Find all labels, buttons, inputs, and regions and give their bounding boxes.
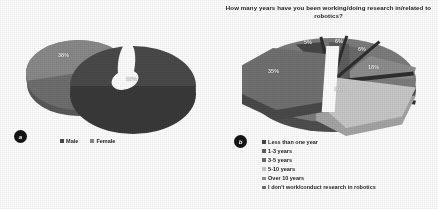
- legend-swatch-icon: [262, 167, 266, 171]
- legend-b-label-5: I don't work/conduct research in robotic…: [268, 184, 376, 190]
- legend-a-item-male[interactable]: Male: [60, 138, 78, 144]
- legend-b-item-less-than-one-year[interactable]: Less than one year: [262, 139, 376, 145]
- legend-b-label-3: 5-10 years: [268, 166, 295, 172]
- legend-a-label-male: Male: [66, 138, 78, 144]
- pie-b-percent-less-than-one-year: 5%: [304, 39, 312, 45]
- panel-a-gender-pie: 38% 62% Male Female a: [0, 0, 219, 209]
- legend-b-label-1: 1-3 years: [268, 148, 292, 154]
- pie-b-percent-not-in-robotics: 35%: [268, 68, 279, 74]
- pie-b-percent-1-3-years: 6%: [335, 38, 343, 44]
- pie-a-male-percent-label: 62%: [126, 76, 137, 82]
- legend-swatch-icon: [262, 158, 266, 162]
- legend-b-item-over-10-years[interactable]: Over 10 years: [262, 175, 376, 181]
- legend-swatch-icon: [60, 139, 64, 143]
- legend-b: Less than one year 1-3 years 3-5 years 5…: [262, 139, 376, 190]
- pie-b-percent-5-10-years: 18%: [368, 64, 379, 70]
- legend-a-label-female: Female: [96, 138, 115, 144]
- legend-swatch-icon: [262, 149, 266, 153]
- figure-canvas: 38% 62% Male Female a How many years hav…: [0, 0, 438, 209]
- pie-a-female-percent-label: 38%: [58, 52, 69, 58]
- pie-b-percent-over-10-years: 30%: [334, 86, 345, 92]
- legend-b-item-not-in-robotics[interactable]: I don't work/conduct research in robotic…: [262, 184, 376, 190]
- panel-marker-a: a: [14, 130, 27, 143]
- legend-b-item-5-10-years[interactable]: 5-10 years: [262, 166, 376, 172]
- legend-a-item-female[interactable]: Female: [90, 138, 115, 144]
- legend-b-item-1-3-years[interactable]: 1-3 years: [262, 148, 376, 154]
- legend-b-label-4: Over 10 years: [268, 175, 304, 181]
- legend-swatch-icon: [90, 139, 94, 143]
- chart-b-title: How many years have you been working/doi…: [225, 4, 432, 21]
- legend-a: Male Female: [60, 138, 115, 144]
- pie-b-percent-3-5-years: 6%: [358, 46, 366, 52]
- legend-swatch-icon: [262, 186, 266, 190]
- pie-chart-a: 38% 62%: [22, 22, 202, 132]
- legend-b-item-3-5-years[interactable]: 3-5 years: [262, 157, 376, 163]
- pie-chart-b: 5% 6% 6% 18% 30% 35%: [240, 24, 425, 134]
- legend-swatch-icon: [262, 140, 266, 144]
- legend-b-label-2: 3-5 years: [268, 157, 292, 163]
- legend-b-label-0: Less than one year: [268, 139, 318, 145]
- legend-swatch-icon: [262, 177, 266, 181]
- panel-marker-b: b: [234, 135, 247, 148]
